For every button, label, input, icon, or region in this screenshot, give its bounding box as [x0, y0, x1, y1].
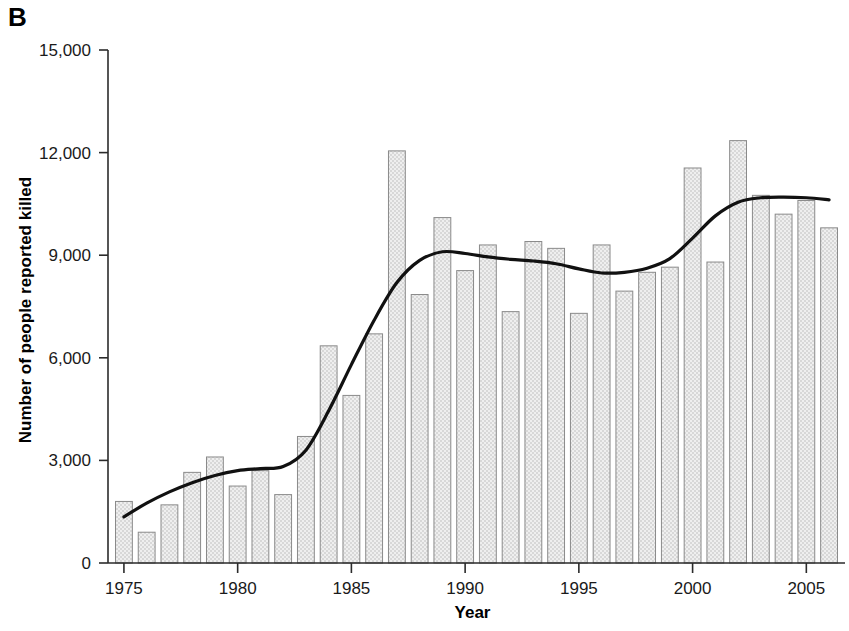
- bar-1981: [252, 471, 269, 563]
- bar-1999: [661, 267, 678, 563]
- bar-1987: [388, 151, 405, 563]
- bar-1996: [593, 245, 610, 563]
- bar-1980: [229, 486, 246, 563]
- bar-1994: [548, 248, 565, 563]
- bar-2005: [798, 200, 815, 563]
- bars-group: [116, 141, 838, 563]
- x-tick-label-1980: 1980: [219, 579, 257, 598]
- y-tick-label-0: 0: [82, 554, 91, 573]
- bar-2001: [707, 262, 724, 563]
- bar-1998: [639, 272, 656, 563]
- x-tick-label-2000: 2000: [674, 579, 712, 598]
- bar-1975: [116, 501, 133, 563]
- y-tick-label-12000: 12,000: [39, 144, 91, 163]
- bar-1984: [320, 346, 337, 563]
- x-axis: 1975198019851990199520002005: [105, 563, 845, 598]
- figure-panel-b: B Number of people reported killed Year …: [0, 0, 849, 631]
- bar-2000: [684, 168, 701, 563]
- y-tick-label-9000: 9,000: [48, 246, 91, 265]
- bar-1982: [275, 495, 292, 563]
- bar-1993: [525, 242, 542, 563]
- bar-2006: [821, 228, 838, 563]
- y-tick-label-6000: 6,000: [48, 349, 91, 368]
- bar-1977: [161, 505, 178, 563]
- x-tick-label-1990: 1990: [446, 579, 484, 598]
- bar-1985: [343, 395, 360, 563]
- bar-1992: [502, 312, 519, 563]
- bar-2003: [752, 195, 769, 563]
- bar-1990: [457, 271, 474, 563]
- bar-2004: [775, 214, 792, 563]
- bar-1976: [138, 532, 155, 563]
- x-tick-label-2005: 2005: [787, 579, 825, 598]
- bar-1991: [479, 245, 496, 563]
- bar-1997: [616, 291, 633, 563]
- bar-1988: [411, 295, 428, 563]
- y-axis: 03,0006,0009,00012,00015,000: [39, 41, 108, 573]
- bar-1989: [434, 218, 451, 563]
- bar-1986: [366, 334, 383, 563]
- x-tick-label-1985: 1985: [332, 579, 370, 598]
- bar-1995: [570, 313, 587, 563]
- x-tick-label-1975: 1975: [105, 579, 143, 598]
- y-tick-label-15000: 15,000: [39, 41, 91, 60]
- y-tick-label-3000: 3,000: [48, 451, 91, 470]
- x-tick-label-1995: 1995: [560, 579, 598, 598]
- bar-chart: 03,0006,0009,00012,00015,000 19751980198…: [0, 0, 849, 631]
